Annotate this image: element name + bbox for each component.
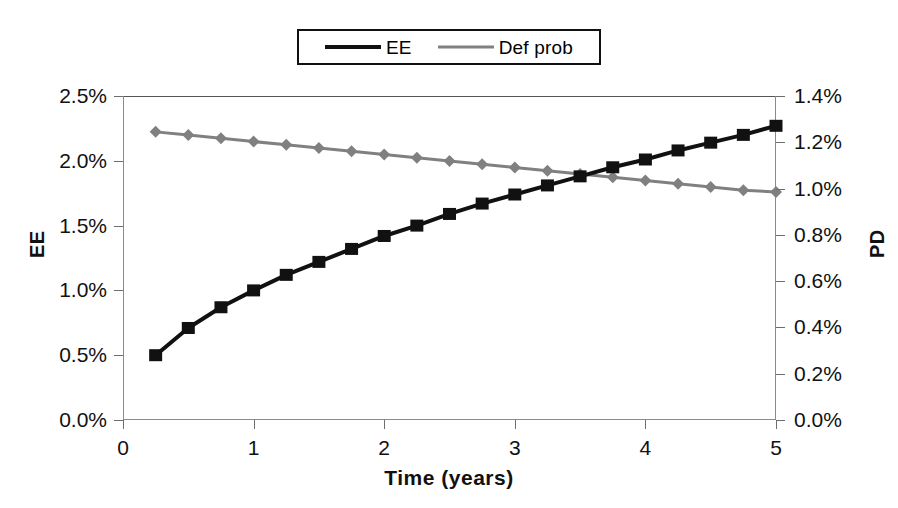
y-axis-right-tick (776, 327, 785, 328)
plot-area (123, 96, 776, 420)
series-ee (149, 120, 782, 361)
x-axis-tick-label: 2 (378, 436, 390, 460)
diamond-marker-icon (737, 184, 749, 196)
legend-line-def-prob (438, 40, 494, 54)
square-marker-icon (476, 198, 489, 210)
diamond-marker-icon (411, 152, 423, 164)
y-axis-left-tick (114, 96, 123, 97)
square-marker-icon (737, 129, 750, 141)
square-marker-icon (704, 137, 717, 149)
diamond-marker-icon (150, 126, 162, 138)
x-axis-tick (515, 420, 516, 429)
x-axis-tick (645, 420, 646, 429)
diamond-marker-icon (541, 165, 553, 177)
series-def-prob (150, 126, 782, 198)
square-marker-icon (672, 144, 685, 156)
legend-item-def-prob: Def prob (438, 38, 573, 57)
y-axis-right-tick-label: 0.6% (794, 269, 842, 293)
diamond-marker-icon (280, 139, 292, 151)
x-axis-tick-label: 4 (640, 436, 652, 460)
y-axis-left-tick-label: 0.0% (0, 408, 107, 432)
y-axis-right-tick (776, 420, 785, 421)
square-marker-icon (770, 120, 783, 132)
y-axis-right-tick-label: 1.2% (794, 130, 842, 154)
diamond-marker-icon (313, 142, 325, 154)
x-axis-tick-label: 5 (770, 436, 782, 460)
square-marker-icon (182, 322, 195, 334)
legend-rule-ee (325, 45, 381, 49)
series-layer (123, 96, 776, 420)
y-axis-right-tick-label: 1.4% (794, 84, 842, 108)
y-axis-right-tick (776, 96, 785, 97)
diamond-marker-icon (378, 149, 390, 161)
chart-legend: EE Def prob (297, 29, 601, 65)
y-axis-left-tick (114, 290, 123, 291)
x-axis-title: Time (years) (384, 466, 513, 490)
diamond-marker-icon (509, 162, 521, 174)
x-axis-tick (254, 420, 255, 429)
legend-line-ee (325, 40, 381, 54)
y-axis-right-tick-label: 0.8% (794, 223, 842, 247)
y-axis-right-title: PD (866, 229, 889, 258)
legend-label-ee: EE (386, 38, 412, 57)
square-marker-icon (639, 154, 652, 166)
square-marker-icon (214, 301, 227, 313)
diamond-marker-icon (476, 158, 488, 170)
y-axis-right-tick (776, 281, 785, 282)
square-marker-icon (443, 208, 456, 220)
diamond-marker-icon (182, 129, 194, 141)
y-axis-right-tick (776, 189, 785, 190)
square-marker-icon (378, 230, 391, 242)
series-line (156, 126, 776, 355)
y-axis-right-tick (776, 142, 785, 143)
diamond-marker-icon (672, 178, 684, 190)
y-axis-left-tick (114, 161, 123, 162)
y-axis-right-tick-label: 0.0% (794, 408, 842, 432)
x-axis-tick-label: 3 (509, 436, 521, 460)
square-marker-icon (541, 179, 554, 191)
y-axis-left-tick-label: 1.5% (0, 214, 107, 238)
y-axis-right-tick (776, 235, 785, 236)
y-axis-left-tick-label: 1.0% (0, 278, 107, 302)
square-marker-icon (280, 269, 293, 281)
diamond-marker-icon (346, 145, 358, 157)
y-axis-left-tick-label: 0.5% (0, 343, 107, 367)
diamond-marker-icon (639, 174, 651, 186)
x-axis-tick (123, 420, 124, 429)
square-marker-icon (606, 161, 619, 173)
diamond-marker-icon (444, 155, 456, 167)
diamond-marker-icon (248, 136, 260, 148)
square-marker-icon (149, 349, 162, 361)
diamond-marker-icon (215, 132, 227, 144)
legend-item-ee: EE (325, 38, 412, 57)
y-axis-left-tick (114, 226, 123, 227)
y-axis-left-tick (114, 420, 123, 421)
x-axis-tick-label: 1 (248, 436, 260, 460)
square-marker-icon (247, 284, 260, 296)
square-marker-icon (574, 170, 587, 182)
chart-root: EE Def prob EE PD Time (years) 0.0%0.5%1… (0, 0, 898, 508)
y-axis-left-tick-label: 2.5% (0, 84, 107, 108)
y-axis-left-tick (114, 355, 123, 356)
square-marker-icon (410, 220, 423, 232)
legend-label-def-prob: Def prob (499, 38, 573, 57)
x-axis-tick-label: 0 (117, 436, 129, 460)
square-marker-icon (312, 256, 325, 268)
square-marker-icon (508, 189, 521, 201)
x-axis-tick (776, 420, 777, 429)
y-axis-right-tick-label: 0.2% (794, 362, 842, 386)
legend-rule-def-prob (438, 46, 494, 49)
y-axis-right-tick-label: 1.0% (794, 177, 842, 201)
y-axis-right-tick (776, 374, 785, 375)
y-axis-right-tick-label: 0.4% (794, 315, 842, 339)
square-marker-icon (345, 243, 358, 255)
x-axis-tick (384, 420, 385, 429)
diamond-marker-icon (705, 181, 717, 193)
y-axis-left-tick-label: 2.0% (0, 149, 107, 173)
